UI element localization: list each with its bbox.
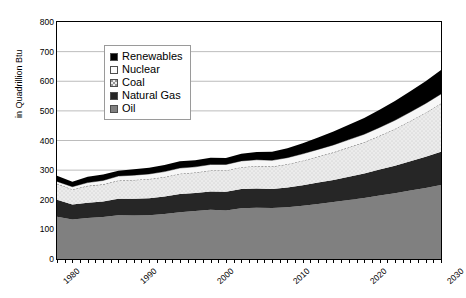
x-minor-tick: [418, 260, 419, 263]
x-tick-label: 2020: [368, 266, 389, 286]
y-tick-label: 500: [20, 107, 54, 116]
x-minor-tick: [441, 260, 442, 263]
y-tick-label: 800: [20, 18, 54, 27]
y-tick-label: 400: [20, 137, 54, 146]
x-minor-tick: [380, 260, 381, 263]
x-minor-tick: [241, 260, 242, 263]
x-minor-tick: [257, 260, 258, 263]
x-minor-tick: [234, 260, 235, 263]
x-tick-label: 2010: [291, 266, 312, 286]
x-minor-tick: [88, 260, 89, 263]
x-minor-tick: [157, 260, 158, 263]
x-minor-tick: [126, 260, 127, 263]
x-minor-tick: [433, 260, 434, 263]
x-minor-tick: [264, 260, 265, 263]
y-tick-label: 700: [20, 48, 54, 57]
chart-legend: RenewablesNuclearCoalNatural GasOil: [104, 45, 191, 120]
x-minor-tick: [149, 260, 150, 263]
legend-swatch-icon: [110, 53, 118, 61]
x-minor-tick: [295, 260, 296, 263]
x-axis: 198019902000201020202030: [0, 260, 461, 298]
legend-label: Renewables: [122, 51, 183, 62]
x-minor-tick: [80, 260, 81, 263]
x-minor-tick: [188, 260, 189, 263]
x-minor-tick: [272, 260, 273, 263]
x-minor-tick: [426, 260, 427, 263]
x-minor-tick: [357, 260, 358, 263]
y-tick-label: 100: [20, 225, 54, 234]
x-minor-tick: [349, 260, 350, 263]
x-minor-tick: [65, 260, 66, 263]
x-minor-tick: [318, 260, 319, 263]
x-minor-tick: [172, 260, 173, 263]
legend-item-renewables: Renewables: [110, 50, 183, 63]
x-minor-tick: [203, 260, 204, 263]
legend-item-oil: Oil: [110, 102, 183, 115]
x-minor-tick: [249, 260, 250, 263]
y-tick-label: 200: [20, 196, 54, 205]
legend-swatch-icon: [110, 92, 118, 100]
y-tick-label: 600: [20, 77, 54, 86]
x-minor-tick: [134, 260, 135, 263]
x-minor-tick: [226, 260, 227, 263]
x-minor-tick: [72, 260, 73, 263]
x-minor-tick: [103, 260, 104, 263]
legend-item-natural-gas: Natural Gas: [110, 89, 183, 102]
x-minor-tick: [280, 260, 281, 263]
x-minor-tick: [395, 260, 396, 263]
x-minor-tick: [180, 260, 181, 263]
x-minor-tick: [111, 260, 112, 263]
x-minor-tick: [195, 260, 196, 263]
legend-label: Oil: [122, 103, 135, 114]
x-minor-tick: [118, 260, 119, 263]
x-tick-label: 2000: [214, 266, 235, 286]
legend-label: Nuclear: [122, 64, 160, 75]
x-minor-tick: [387, 260, 388, 263]
x-minor-tick: [372, 260, 373, 263]
x-minor-tick: [57, 260, 58, 263]
legend-label: Natural Gas: [122, 90, 181, 101]
x-minor-tick: [333, 260, 334, 263]
legend-label: Coal: [122, 77, 145, 88]
x-minor-tick: [218, 260, 219, 263]
x-minor-tick: [141, 260, 142, 263]
x-minor-tick: [410, 260, 411, 263]
legend-swatch-icon: [110, 79, 118, 87]
x-minor-tick: [95, 260, 96, 263]
y-tick-label: 300: [20, 166, 54, 175]
legend-item-coal: Coal: [110, 76, 183, 89]
x-minor-tick: [211, 260, 212, 263]
legend-item-nuclear: Nuclear: [110, 63, 183, 76]
x-minor-tick: [303, 260, 304, 263]
x-minor-tick: [287, 260, 288, 263]
x-tick-label: 2030: [445, 266, 466, 286]
x-minor-tick: [165, 260, 166, 263]
y-axis: 8007006005004003002001000: [16, 0, 54, 298]
x-minor-tick: [403, 260, 404, 263]
x-minor-tick: [326, 260, 327, 263]
x-minor-tick: [341, 260, 342, 263]
x-tick-label: 1990: [138, 266, 159, 286]
legend-swatch-icon: [110, 66, 118, 74]
x-minor-tick: [364, 260, 365, 263]
x-tick-label: 1980: [61, 266, 82, 286]
x-minor-tick: [310, 260, 311, 263]
legend-swatch-icon: [110, 105, 118, 113]
